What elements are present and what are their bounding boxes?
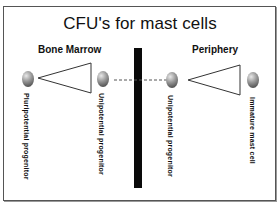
cell-immature-mast-cell — [247, 72, 259, 88]
expansion-triangle-bone-marrow — [38, 63, 91, 93]
cell-pluripotential-progenitor — [22, 71, 34, 87]
label-immature-mast-cell: Immature mast cell — [249, 97, 256, 164]
label-unipotential-progenitor-bm: Unipotential progenitor — [98, 93, 105, 175]
expansion-triangle-periphery — [188, 65, 240, 95]
cell-unipotential-progenitor-bm — [97, 71, 109, 87]
diagram-shapes — [0, 0, 280, 207]
label-pluripotential-progenitor: Pluripotential progenitor — [23, 93, 30, 180]
label-unipotential-progenitor-periphery: Unipotential progenitor — [167, 95, 174, 177]
cell-unipotential-progenitor-periphery — [166, 72, 178, 88]
